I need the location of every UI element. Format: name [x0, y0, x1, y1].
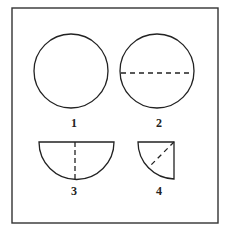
folding-diagram: 1 2 3 4	[0, 0, 230, 236]
fold-line	[148, 142, 174, 168]
shape-1-full-circle	[34, 34, 108, 108]
frame	[12, 8, 218, 223]
shape-4-label: 4	[156, 184, 162, 198]
shape-2-label: 2	[156, 116, 162, 130]
shape-3-semicircle	[39, 142, 114, 179]
shape-1-label: 1	[71, 116, 77, 130]
shape-4-quarter-circle	[138, 142, 174, 179]
shape-3-label: 3	[71, 184, 77, 198]
shape-2-circle-with-fold	[120, 34, 194, 108]
